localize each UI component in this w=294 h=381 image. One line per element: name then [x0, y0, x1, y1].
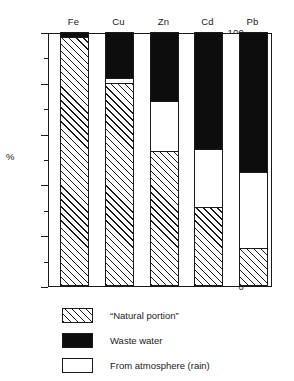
y-tick-major: [41, 287, 48, 288]
segment-wastewater-cd: [194, 32, 223, 149]
legend-label: Waste water: [110, 334, 162, 347]
bar-pb: [239, 32, 268, 286]
y-tick-major: [41, 135, 48, 136]
y-axis: [0, 0, 48, 381]
segment-natural-fe: [60, 37, 89, 286]
segment-wastewater-cu: [105, 32, 134, 78]
y-tick-major: [41, 236, 48, 237]
bar-zn: [150, 32, 179, 286]
segment-wastewater-zn: [150, 32, 179, 101]
legend-swatch-diagonal-hatch: [62, 308, 93, 323]
category-label-pb: Pb: [226, 17, 279, 27]
y-tick-major: [41, 84, 48, 85]
legend-swatch-stipple-dots: [62, 358, 93, 373]
segment-natural-cu: [105, 83, 134, 286]
plot-area: [48, 33, 272, 287]
legend-item: “Natural portion”: [62, 306, 288, 331]
legend-item: From atmosphere (rain): [62, 356, 288, 381]
legend-label: “Natural portion”: [110, 309, 179, 322]
bar-cd: [194, 32, 223, 286]
segment-atmosphere-cd: [194, 149, 223, 207]
y-tick-major: [41, 33, 48, 34]
segment-natural-zn: [150, 151, 179, 286]
bar-cu: [105, 32, 134, 286]
stacked-bar-chart-figure: % 020406080100 FeCuZnCdPb “Natural porti…: [0, 0, 294, 381]
segment-wastewater-fe: [60, 32, 89, 37]
segment-wastewater-pb: [239, 32, 268, 172]
segment-natural-cd: [194, 207, 223, 286]
legend-item: Waste water: [62, 331, 288, 356]
y-tick-major: [41, 185, 48, 186]
segment-natural-pb: [239, 248, 268, 286]
y-axis-title: %: [6, 151, 14, 162]
chart-legend: “Natural portion”Waste waterFrom atmosph…: [62, 306, 288, 381]
segment-atmosphere-cu: [105, 78, 134, 83]
segment-atmosphere-pb: [239, 172, 268, 248]
legend-label: From atmosphere (rain): [110, 359, 210, 372]
segment-atmosphere-zn: [150, 101, 179, 152]
bar-fe: [60, 32, 89, 286]
legend-swatch-solid-black: [62, 333, 93, 348]
